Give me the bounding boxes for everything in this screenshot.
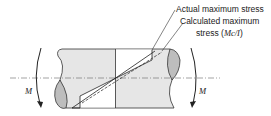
formula-suffix: ): [240, 28, 243, 38]
formula-prefix: stress (: [196, 28, 224, 38]
label-moment-right: M: [199, 87, 206, 96]
label-actual-max-stress: Actual maximum stress: [176, 5, 264, 14]
beam-stress-diagram: Actual maximum stress Calculated maximum…: [0, 0, 271, 116]
label-calculated-formula: stress (Mc/I): [196, 29, 243, 38]
formula: Mc/I: [224, 28, 240, 38]
label-calculated-max-stress: Calculated maximum: [180, 17, 259, 26]
leader-actual: [152, 10, 175, 50]
beam-body: [58, 49, 177, 108]
label-moment-left: M: [25, 87, 32, 96]
